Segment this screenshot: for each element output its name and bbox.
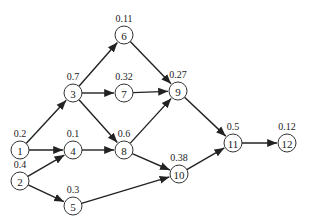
- node-3: 30.7: [64, 71, 82, 102]
- node-label: 2: [17, 176, 23, 188]
- edge-7-to-9: [133, 91, 168, 92]
- node-6: 60.11: [115, 13, 133, 44]
- edge-2-to-4: [28, 155, 65, 176]
- edges-layer: [26, 41, 277, 203]
- node-label: 11: [228, 138, 239, 150]
- graph-svg: 10.220.430.740.150.360.1170.3280.690.271…: [0, 0, 309, 224]
- edge-6-to-9: [130, 41, 171, 83]
- node-12: 120.12: [278, 121, 296, 152]
- node-2: 20.4: [11, 159, 29, 190]
- node-label: 7: [121, 88, 127, 100]
- edge-1-to-3: [26, 100, 66, 143]
- node-weight-label: 0.2: [14, 128, 27, 139]
- edge-2-to-5: [28, 185, 64, 202]
- node-weight-label: 0.6: [118, 128, 131, 139]
- node-5: 50.3: [64, 184, 82, 215]
- node-weight-label: 0.5: [227, 121, 240, 132]
- node-7: 70.32: [115, 71, 133, 102]
- node-label: 6: [121, 30, 127, 42]
- node-weight-label: 0.12: [278, 121, 296, 132]
- node-weight-label: 0.1: [67, 128, 80, 139]
- node-label: 3: [70, 88, 76, 100]
- node-weight-label: 0.32: [115, 71, 133, 82]
- node-weight-label: 0.3: [67, 184, 80, 195]
- node-weight-label: 0.11: [115, 13, 132, 24]
- node-weight-label: 0.7: [67, 71, 80, 82]
- edge-8-to-10: [132, 154, 170, 170]
- node-weight-label: 0.38: [170, 152, 188, 163]
- node-1: 10.2: [11, 128, 29, 159]
- node-8: 80.6: [115, 128, 133, 159]
- node-label: 4: [70, 145, 76, 157]
- edge-3-to-8: [79, 100, 117, 143]
- edge-10-to-11: [187, 148, 225, 170]
- node-weight-label: 0.27: [169, 69, 187, 80]
- node-label: 9: [175, 86, 181, 98]
- node-label: 8: [121, 145, 127, 157]
- edge-5-to-10: [82, 177, 170, 204]
- node-10: 100.38: [170, 152, 188, 183]
- node-label: 5: [70, 201, 76, 213]
- node-4: 40.1: [64, 128, 82, 159]
- graph-diagram: 10.220.430.740.150.360.1170.3280.690.271…: [0, 0, 309, 224]
- node-label: 12: [282, 138, 293, 150]
- edge-8-to-9: [130, 98, 171, 143]
- node-label: 1: [17, 145, 23, 157]
- node-label: 10: [174, 169, 186, 181]
- edge-3-to-6: [79, 43, 117, 87]
- node-11: 110.5: [224, 121, 242, 152]
- node-9: 90.27: [169, 69, 187, 100]
- edge-9-to-11: [185, 97, 226, 136]
- node-weight-label: 0.4: [14, 159, 27, 170]
